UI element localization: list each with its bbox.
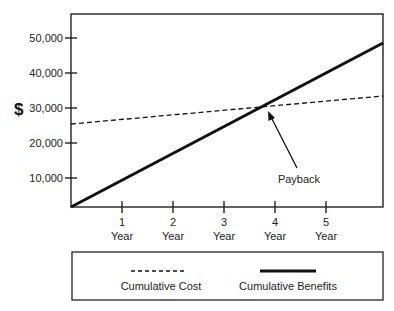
- arrowhead-icon: [268, 111, 275, 121]
- legend: Cumulative Cost Cumulative Benefits: [72, 252, 383, 300]
- x-tick-label: 1: [119, 216, 125, 228]
- payback-chart: 10,000 20,000 30,000 40,000 50,000 $ 1 2…: [0, 0, 394, 311]
- legend-label-benefits: Cumulative Benefits: [239, 280, 337, 292]
- x-tick-label: 3: [221, 216, 227, 228]
- x-tick-label: 5: [323, 216, 329, 228]
- y-tick-label: 20,000: [29, 137, 63, 149]
- cumulative-cost-line: [71, 96, 383, 124]
- y-tick-label: 50,000: [29, 32, 63, 44]
- x-tick-label: 2: [170, 216, 176, 228]
- legend-label-cost: Cumulative Cost: [121, 280, 202, 292]
- x-tick-sublabel: Year: [264, 230, 287, 242]
- payback-label: Payback: [278, 173, 321, 185]
- legend-box: [72, 252, 383, 300]
- y-tick-label: 30,000: [29, 102, 63, 114]
- x-tick-sublabel: Year: [162, 230, 185, 242]
- cumulative-benefits-line: [71, 43, 383, 207]
- y-tick-label: 40,000: [29, 67, 63, 79]
- payback-annotation: Payback: [268, 111, 321, 185]
- payback-arrow: [271, 117, 297, 168]
- y-tick-label: 10,000: [29, 172, 63, 184]
- y-axis: 10,000 20,000 30,000 40,000 50,000 $: [14, 32, 77, 184]
- x-tick-label: 4: [272, 216, 278, 228]
- x-tick-sublabel: Year: [315, 230, 338, 242]
- y-axis-label: $: [14, 100, 24, 119]
- x-tick-sublabel: Year: [213, 230, 236, 242]
- x-tick-sublabel: Year: [111, 230, 134, 242]
